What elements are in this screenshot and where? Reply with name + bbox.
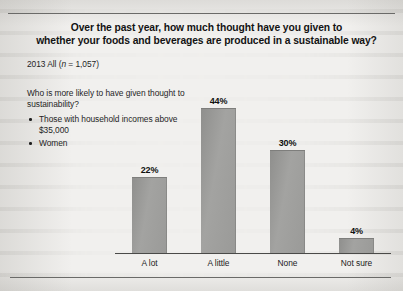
bar-value-label: 30% <box>279 138 296 148</box>
bullet-label: Women <box>39 138 67 148</box>
bar-value-label: 22% <box>141 165 158 175</box>
bar-value-label: 44% <box>210 96 227 106</box>
x-axis-labels: A lot A little None Not sure <box>115 258 391 268</box>
top-divider-rule <box>8 13 395 14</box>
subtitle-prefix: 2013 All ( <box>27 59 61 69</box>
x-label-a-lot: A lot <box>115 258 184 268</box>
bar-a-lot <box>132 177 167 253</box>
bar-column-none: 30% <box>253 96 322 253</box>
bar-column-not-sure: 4% <box>322 96 391 253</box>
bar-a-little <box>201 108 236 253</box>
figure-title-line-2: whether your foods and beverages are pro… <box>28 34 385 47</box>
x-label-none: None <box>253 258 322 268</box>
x-label-not-sure: Not sure <box>322 258 391 268</box>
bullet-dot-icon <box>29 118 32 121</box>
bar-column-a-lot: 22% <box>115 96 184 253</box>
bar-none <box>270 150 305 253</box>
bullet-dot-icon <box>29 142 32 145</box>
figure-page: Over the past year, how much thought hav… <box>0 0 403 291</box>
figure-subtitle: 2013 All (n = 1,057) <box>27 59 99 69</box>
bar-column-a-little: 44% <box>184 96 253 253</box>
subtitle-suffix: = 1,057) <box>66 59 99 69</box>
bar-series: 22% 44% 30% 4% <box>115 96 391 253</box>
bar-not-sure <box>339 238 374 253</box>
x-axis-line <box>115 253 391 255</box>
figure-title-line-1: Over the past year, how much thought hav… <box>71 22 343 33</box>
bar-chart: 22% 44% 30% 4% <box>115 96 391 254</box>
bar-value-label: 4% <box>350 226 363 236</box>
x-label-a-little: A little <box>184 258 253 268</box>
figure-title: Over the past year, how much thought hav… <box>28 21 385 47</box>
bottom-divider-rule <box>10 277 391 278</box>
